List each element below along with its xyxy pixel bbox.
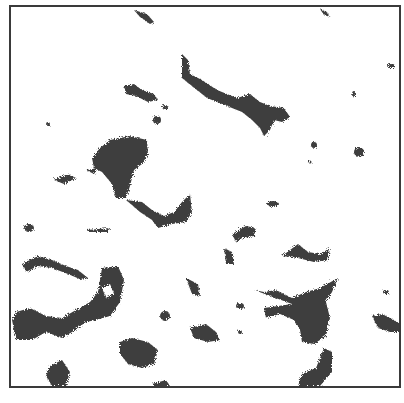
- image-frame: [9, 5, 401, 388]
- micrograph-texture: [11, 7, 399, 386]
